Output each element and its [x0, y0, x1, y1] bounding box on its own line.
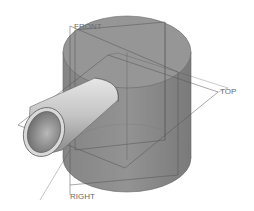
label-right[interactable]: RIGHT: [70, 192, 95, 201]
label-top[interactable]: TOP: [220, 87, 236, 96]
label-front[interactable]: FRONT: [74, 22, 102, 31]
model-canvas[interactable]: FRONT TOP RIGHT: [0, 0, 254, 211]
cad-viewport[interactable]: FRONT TOP RIGHT: [0, 0, 254, 211]
